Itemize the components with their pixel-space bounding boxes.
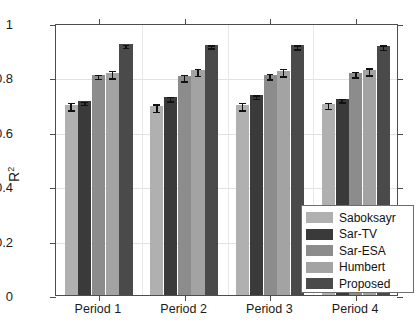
bar (191, 70, 204, 295)
bar (277, 71, 290, 295)
y-tick-mark-right (397, 134, 403, 135)
bar (250, 95, 263, 295)
legend-label: Sar-ESA (339, 245, 386, 257)
error-bar-cap-upper (253, 95, 260, 96)
y-tick-mark-right (397, 79, 403, 80)
bar (264, 75, 277, 295)
bar (92, 75, 105, 295)
y-tick-mark (50, 134, 56, 135)
x-tick-mark-top (356, 19, 357, 25)
error-bar-cap-lower (239, 110, 246, 111)
error-bar-cap-upper (181, 75, 188, 76)
bar (164, 97, 177, 295)
y-tick-label: 0.8 (0, 71, 13, 86)
error-bar-cap-upper (294, 45, 301, 46)
error-bar-cap-lower (280, 76, 287, 77)
error-bar-cap-lower (109, 78, 116, 79)
y-tick-label: 0.2 (0, 234, 13, 249)
bar (150, 106, 163, 295)
error-bar-cap-upper (109, 71, 116, 72)
bar (205, 45, 218, 295)
y-tick-label: 0.6 (0, 125, 13, 140)
x-tick-label: Period 2 (160, 302, 207, 316)
error-bar-cap-lower (153, 112, 160, 113)
legend[interactable]: SaboksayrSar-TVSar-ESAHumbertProposed (301, 205, 414, 293)
y-axis-title-exponent: 2 (6, 167, 16, 172)
legend-swatch (306, 245, 333, 256)
error-bar-cap-upper (208, 45, 215, 46)
error-bar-cap-lower (294, 49, 301, 50)
legend-item[interactable]: Sar-ESA (306, 243, 409, 259)
error-bar-cap-lower (380, 50, 387, 51)
chart-figure: R2 00.20.40.60.81 Period 1Period 2Period… (0, 0, 420, 332)
y-tick-mark-right (397, 188, 403, 189)
y-tick-label: 1 (6, 17, 13, 32)
error-bar-cap-upper (95, 75, 102, 76)
error-bar-cap-upper (167, 97, 174, 98)
legend-item[interactable]: Sar-TV (306, 226, 409, 242)
error-bar-cap-lower (195, 76, 202, 77)
legend-swatch (306, 212, 333, 223)
error-bar-cap-upper (153, 104, 160, 105)
error-bar-cap-lower (253, 99, 260, 100)
error-bar-cap-lower (208, 48, 215, 49)
bar (106, 73, 119, 295)
legend-item[interactable]: Saboksayr (306, 210, 409, 226)
error-bar-cap-lower (325, 109, 332, 110)
y-tick-mark (50, 79, 56, 80)
y-tick-mark (50, 188, 56, 189)
x-tick-mark (356, 295, 357, 301)
legend-label: Humbert (339, 261, 385, 273)
error-bar-cap-upper (339, 99, 346, 100)
error-bar-cap-upper (280, 69, 287, 70)
error-bar-cap-lower (267, 79, 274, 80)
y-tick-mark (50, 243, 56, 244)
error-bar-cap-lower (366, 75, 373, 76)
error-bar-cap-upper (352, 72, 359, 73)
bar (78, 101, 91, 295)
vertical-gridline (228, 25, 229, 295)
bar (119, 44, 132, 295)
legend-swatch (306, 229, 333, 240)
legend-item[interactable]: Humbert (306, 259, 409, 275)
error-bar-cap-lower (123, 48, 130, 49)
x-tick-label: Period 4 (332, 302, 379, 316)
bar (65, 105, 78, 295)
y-tick-label: 0.4 (0, 180, 13, 195)
error-bar-cap-upper (123, 45, 130, 46)
x-tick-label: Period 1 (75, 302, 122, 316)
error-bar-cap-lower (68, 110, 75, 111)
error-bar-cap-upper (380, 45, 387, 46)
bar (236, 105, 249, 295)
error-bar-cap-upper (267, 74, 274, 75)
y-tick-label: 0 (6, 289, 13, 304)
legend-swatch (306, 278, 333, 289)
bar (178, 76, 191, 295)
x-tick-mark (185, 295, 186, 301)
error-bar-cap-lower (81, 105, 88, 106)
error-bar-cap-lower (352, 77, 359, 78)
error-bar-cap-upper (195, 69, 202, 70)
y-tick-mark-right (397, 25, 403, 26)
x-tick-mark (99, 295, 100, 301)
legend-swatch (306, 262, 333, 273)
error-bar-cap-upper (81, 102, 88, 103)
vertical-gridline (142, 25, 143, 295)
error-bar-cap-upper (239, 103, 246, 104)
legend-label: Saboksayr (339, 212, 396, 224)
error-bar-cap-lower (95, 79, 102, 80)
y-tick-mark-right (397, 297, 403, 298)
x-tick-mark-top (185, 19, 186, 25)
legend-label: Sar-TV (339, 228, 377, 240)
error-bar-cap-lower (167, 101, 174, 102)
legend-label: Proposed (339, 278, 390, 290)
error-bar-cap-upper (366, 68, 373, 69)
y-tick-mark (50, 297, 56, 298)
error-bar-cap-upper (325, 103, 332, 104)
legend-item[interactable]: Proposed (306, 276, 409, 292)
x-tick-mark-top (270, 19, 271, 25)
x-tick-mark (270, 295, 271, 301)
error-bar-cap-lower (339, 102, 346, 103)
error-bar-cap-upper (68, 103, 75, 104)
x-tick-mark-top (99, 19, 100, 25)
